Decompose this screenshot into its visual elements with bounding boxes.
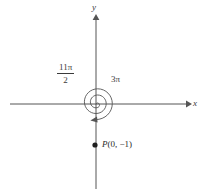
- point-p-label: P(0, −1): [102, 140, 132, 149]
- x-axis-arrowhead: [186, 101, 192, 108]
- figure-canvas: [0, 0, 208, 194]
- fraction-bar: [57, 73, 74, 74]
- angle-label-denominator: 2: [57, 75, 74, 85]
- x-axis-label: x: [193, 99, 197, 108]
- angle-label-3pi: 3π: [111, 75, 120, 84]
- y-axis-label: y: [92, 3, 96, 12]
- spiral-curve: [84, 89, 112, 123]
- spiral-arrowhead: [90, 116, 97, 122]
- spiral-figure: y x 11π 2 3π P(0, −1): [0, 0, 208, 194]
- angle-label-numerator: 11π: [57, 63, 74, 73]
- point-p-marker: [92, 142, 97, 147]
- y-axis: [93, 14, 100, 189]
- y-axis-arrowhead: [93, 14, 100, 20]
- x-axis: [10, 101, 192, 108]
- angle-label-11pi-over-2: 11π 2: [57, 63, 74, 86]
- point-p-coordinates: (0, −1): [108, 139, 133, 149]
